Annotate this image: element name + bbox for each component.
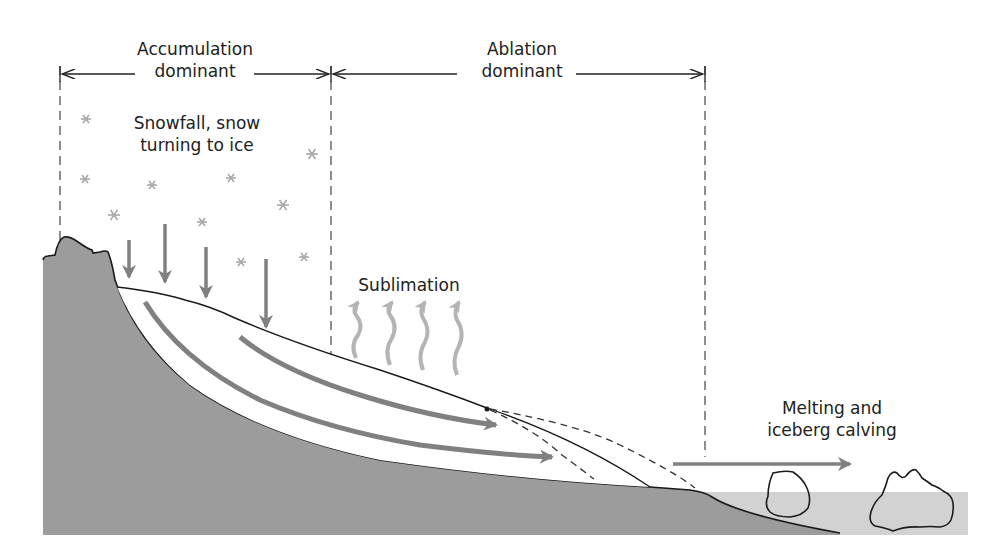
wavy-up-arrow-icon [420, 302, 427, 370]
snowfall-line2: turning to ice [112, 134, 282, 156]
snowflake-icon [80, 175, 90, 183]
ablation-line1: Ablation [452, 38, 592, 60]
accumulation-line2: dominant [120, 60, 270, 82]
sublimation-label: Sublimation [344, 274, 474, 296]
wavy-up-arrow-icon [387, 302, 394, 365]
sublimation-text: Sublimation [344, 274, 474, 296]
snowflake-icon [236, 258, 246, 266]
snowflake-icon [226, 174, 236, 182]
snowflake-icon [306, 149, 318, 159]
wavy-up-arrow-icon [353, 302, 360, 358]
melting-line2: iceberg calving [752, 419, 912, 441]
snowflake-icon [81, 115, 91, 123]
snowflake-icon [108, 210, 120, 220]
glacier-diagram [0, 0, 1003, 560]
ablation-zone-label: Ablation dominant [452, 38, 592, 82]
snowflake-icon [277, 200, 289, 210]
melting-calving-label: Melting and iceberg calving [752, 397, 912, 441]
melting-line1: Melting and [752, 397, 912, 419]
snowflake-icon [299, 253, 309, 261]
accumulation-zone-label: Accumulation dominant [120, 38, 270, 82]
accumulation-line1: Accumulation [120, 38, 270, 60]
snowfall-label: Snowfall, snow turning to ice [112, 112, 282, 156]
snowflake-icon [147, 181, 157, 189]
sublimation-arrows [353, 302, 461, 375]
snowflake-icon [197, 218, 207, 226]
snowfall-line1: Snowfall, snow [112, 112, 282, 134]
wavy-up-arrow-icon [454, 302, 461, 375]
ablation-line2: dominant [452, 60, 592, 82]
